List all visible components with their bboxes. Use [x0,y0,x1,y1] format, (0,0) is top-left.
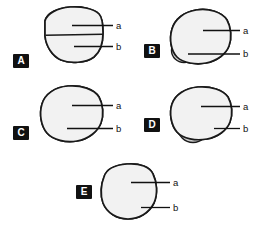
panel-c-outline-overstroke [41,86,103,142]
panel-a: a b A [13,7,122,69]
panel-b-badge-label: B [148,45,155,56]
panel-a-callout-a: a [116,20,122,31]
panel-a-badge-label: A [17,55,24,66]
panel-a-callout-b: b [116,41,121,52]
panel-c-callout-b: b [116,123,121,134]
panel-c: a b C [13,86,122,142]
panel-b-callout-a: a [243,25,249,36]
panel-b-outline-overstroke [171,9,231,63]
anatomical-panel-figure: a b A a b B a b [0,0,263,230]
panel-c-badge-label: C [17,127,24,138]
panel-e-callout-a: a [173,177,179,188]
figure-root: a b A a b B a b [0,0,263,230]
panel-d-outline-overstroke [171,87,232,140]
panel-d-badge-label: D [148,119,155,130]
panel-e-callout-b: b [173,202,178,213]
panel-b-callout-b: b [243,48,248,59]
panel-e: a b E [76,164,179,220]
panel-c-callout-a: a [116,100,122,111]
panel-d-callout-a: a [243,101,249,112]
panel-e-badge-label: E [81,186,88,197]
panel-a-divider-line [46,34,103,35]
panel-e-outline-overstroke [101,164,156,219]
panel-d: a b D [144,87,249,143]
panel-b: a b B [144,9,249,63]
panel-d-callout-b: b [243,123,248,134]
